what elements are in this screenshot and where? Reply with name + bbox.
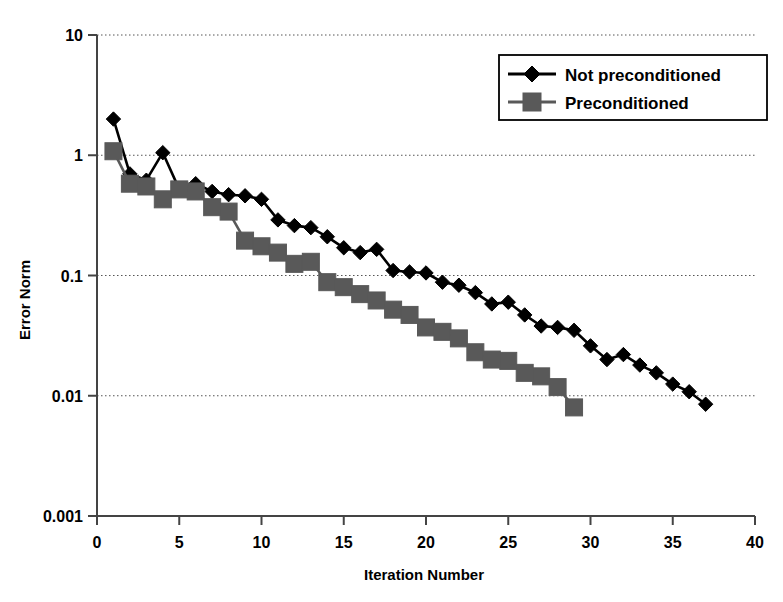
diamond-marker bbox=[616, 347, 630, 361]
diamond-marker bbox=[452, 278, 466, 292]
square-marker bbox=[566, 399, 583, 416]
x-tick-group: 0510152025303540 bbox=[93, 516, 764, 551]
diamond-marker bbox=[534, 319, 548, 333]
diamond-marker bbox=[435, 275, 449, 289]
square-marker bbox=[523, 93, 541, 111]
diamond-marker bbox=[419, 266, 433, 280]
x-tick-label: 0 bbox=[93, 534, 102, 551]
square-marker bbox=[434, 323, 451, 340]
diamond-marker bbox=[666, 377, 680, 391]
square-marker bbox=[138, 178, 155, 195]
square-marker bbox=[450, 330, 467, 347]
diamond-marker bbox=[633, 358, 647, 372]
square-marker bbox=[286, 255, 303, 272]
square-marker bbox=[418, 319, 435, 336]
square-marker bbox=[385, 301, 402, 318]
x-tick-label: 20 bbox=[417, 534, 435, 551]
square-marker bbox=[352, 286, 369, 303]
square-marker bbox=[253, 238, 270, 255]
square-marker bbox=[269, 244, 286, 261]
legend-item-preconditioned[interactable]: Preconditioned bbox=[508, 93, 689, 113]
diamond-marker bbox=[337, 241, 351, 255]
x-tick-label: 35 bbox=[664, 534, 682, 551]
x-tick-label: 30 bbox=[582, 534, 600, 551]
y-tick-label: 0.001 bbox=[43, 508, 83, 525]
square-marker bbox=[319, 274, 336, 291]
square-marker bbox=[237, 232, 254, 249]
y-tick-label: 0.1 bbox=[61, 268, 83, 285]
diamond-marker bbox=[221, 187, 235, 201]
square-marker bbox=[467, 344, 484, 361]
diamond-marker bbox=[238, 189, 252, 203]
data-series-group bbox=[105, 112, 713, 416]
diamond-marker bbox=[320, 230, 334, 244]
square-marker bbox=[368, 292, 385, 309]
chart-container: 0510152025303540 0.0010.010.1110 Iterati… bbox=[0, 0, 783, 602]
series-preconditioned bbox=[105, 143, 583, 416]
square-marker bbox=[121, 175, 138, 192]
diamond-marker bbox=[550, 320, 564, 334]
x-tick-label: 25 bbox=[499, 534, 517, 551]
diamond-marker bbox=[205, 184, 219, 198]
x-tick-label: 15 bbox=[335, 534, 353, 551]
legend-label: Not preconditioned bbox=[565, 66, 721, 85]
diamond-marker bbox=[287, 218, 301, 232]
x-tick-label: 10 bbox=[253, 534, 271, 551]
diamond-marker bbox=[106, 112, 120, 126]
diamond-marker bbox=[402, 265, 416, 279]
y-axis-label: Error Norm bbox=[16, 260, 33, 340]
square-marker bbox=[154, 191, 171, 208]
square-marker bbox=[220, 203, 237, 220]
diamond-marker bbox=[649, 366, 663, 380]
square-marker bbox=[187, 183, 204, 200]
series-not-preconditioned bbox=[106, 112, 713, 412]
y-tick-group: 0.0010.010.1110 bbox=[43, 27, 97, 525]
square-marker bbox=[204, 199, 221, 216]
series-line bbox=[114, 119, 706, 404]
square-marker bbox=[335, 279, 352, 296]
legend: Not preconditionedPreconditioned bbox=[499, 55, 767, 120]
square-marker bbox=[516, 364, 533, 381]
square-marker bbox=[533, 368, 550, 385]
square-marker bbox=[401, 306, 418, 323]
x-tick-label: 5 bbox=[175, 534, 184, 551]
diamond-marker bbox=[353, 245, 367, 259]
square-marker bbox=[549, 379, 566, 396]
square-marker bbox=[500, 352, 517, 369]
y-tick-label: 0.01 bbox=[52, 388, 83, 405]
legend-label: Preconditioned bbox=[565, 94, 689, 113]
x-axis-label: Iteration Number bbox=[364, 566, 484, 583]
y-tick-label: 1 bbox=[74, 147, 83, 164]
square-marker bbox=[105, 143, 122, 160]
diamond-marker bbox=[304, 220, 318, 234]
diamond-marker bbox=[156, 146, 170, 160]
error-norm-convergence-chart: 0510152025303540 0.0010.010.1110 Iterati… bbox=[0, 0, 783, 602]
x-tick-label: 40 bbox=[746, 534, 764, 551]
square-marker bbox=[483, 351, 500, 368]
square-marker bbox=[171, 181, 188, 198]
y-tick-label: 10 bbox=[65, 27, 83, 44]
square-marker bbox=[302, 253, 319, 270]
